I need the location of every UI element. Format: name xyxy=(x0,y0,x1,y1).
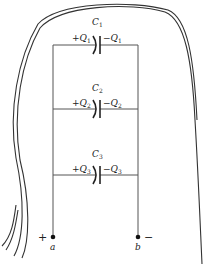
svg-text:C3: C3 xyxy=(92,149,103,160)
svg-text:+: + xyxy=(38,231,47,244)
svg-text:−Q3: −Q3 xyxy=(103,164,122,175)
parallel-capacitor-diagram: C1 +Q1 −Q1 C2 +Q2 −Q2 C3 +Q3 −Q3 + a − b xyxy=(0,0,205,264)
svg-text:−: − xyxy=(144,231,153,244)
terminal-dot-icon xyxy=(136,235,141,240)
svg-text:−Q2: −Q2 xyxy=(103,98,122,109)
terminal-dot-icon xyxy=(51,235,56,240)
capacitor-c1: C1 +Q1 −Q1 xyxy=(72,17,122,54)
svg-text:C2: C2 xyxy=(92,83,103,94)
capacitor-c3: C3 +Q3 −Q3 xyxy=(72,149,122,184)
hand-drawn-loops xyxy=(2,4,202,264)
capacitor-c2: C2 +Q2 −Q2 xyxy=(72,83,122,118)
svg-text:+Q2: +Q2 xyxy=(72,98,91,109)
svg-text:b: b xyxy=(135,242,141,252)
svg-text:a: a xyxy=(50,242,55,252)
svg-text:C1: C1 xyxy=(92,17,103,28)
svg-text:+Q1: +Q1 xyxy=(72,33,91,44)
circuit-wires xyxy=(53,45,138,237)
svg-text:−Q1: −Q1 xyxy=(103,33,122,44)
svg-text:+Q3: +Q3 xyxy=(72,164,91,175)
